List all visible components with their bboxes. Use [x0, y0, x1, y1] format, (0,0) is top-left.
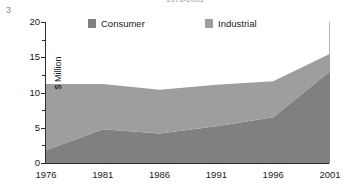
y-tick-mark [41, 128, 45, 129]
page-number: 3 [6, 5, 11, 15]
y-tick-mark [41, 22, 45, 23]
x-tick-label: 2001 [319, 169, 340, 180]
stacked-area-plot [46, 22, 330, 163]
chart-title: 1976-2001 [120, 0, 250, 4]
chart-page: 3 1976-2001 ConsumerIndustrial $ Million… [0, 0, 360, 190]
x-tick-label: 1981 [92, 169, 113, 180]
x-tick-label: 1996 [263, 169, 284, 180]
plot-area: $ Million 05101520 197619811986199119962… [45, 22, 330, 164]
y-tick-mark-minor [42, 145, 45, 146]
y-tick-label: 5 [35, 123, 40, 133]
y-tick-mark-minor [42, 75, 45, 76]
y-tick-mark [41, 57, 45, 58]
y-tick-label: 15 [29, 52, 40, 62]
y-tick-label: 20 [29, 17, 40, 27]
x-tick-label: 1991 [206, 169, 227, 180]
x-tick-label: 1976 [35, 169, 56, 180]
y-tick-mark-minor [42, 40, 45, 41]
y-tick-mark-minor [42, 110, 45, 111]
y-tick-mark [41, 163, 45, 164]
y-tick-mark [41, 93, 45, 94]
y-tick-label: 0 [35, 158, 40, 168]
y-tick-label: 10 [29, 88, 40, 98]
y-axis-title: $ Million [53, 43, 63, 103]
x-tick-label: 1986 [149, 169, 170, 180]
